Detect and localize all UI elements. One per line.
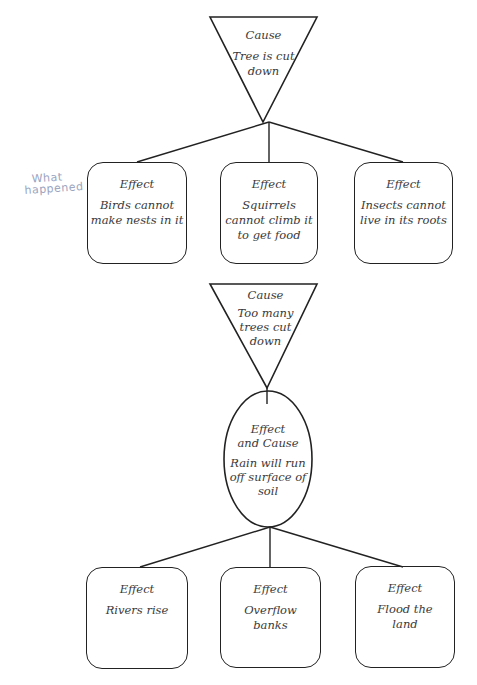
cause-node-2: Cause Too many trees cut down xyxy=(222,288,309,348)
effect-box: Effect Squirrels cannot climb it to get … xyxy=(220,162,318,264)
cause-node-1: Cause Tree is cut down xyxy=(220,28,307,79)
handwritten-annotation: What happened xyxy=(23,170,84,196)
effect-box: Effect Overflow banks xyxy=(220,567,321,668)
effect-box: Effect Flood the land xyxy=(355,566,455,668)
effect-and-cause-node: Effect and Cause Rain will run off surfa… xyxy=(224,422,312,498)
effect-box: Effect Rivers rise xyxy=(86,567,188,669)
effect-box: Effect Birds cannot make nests in it xyxy=(87,162,187,264)
effect-box: Effect Insects cannot live in its roots xyxy=(354,162,453,264)
